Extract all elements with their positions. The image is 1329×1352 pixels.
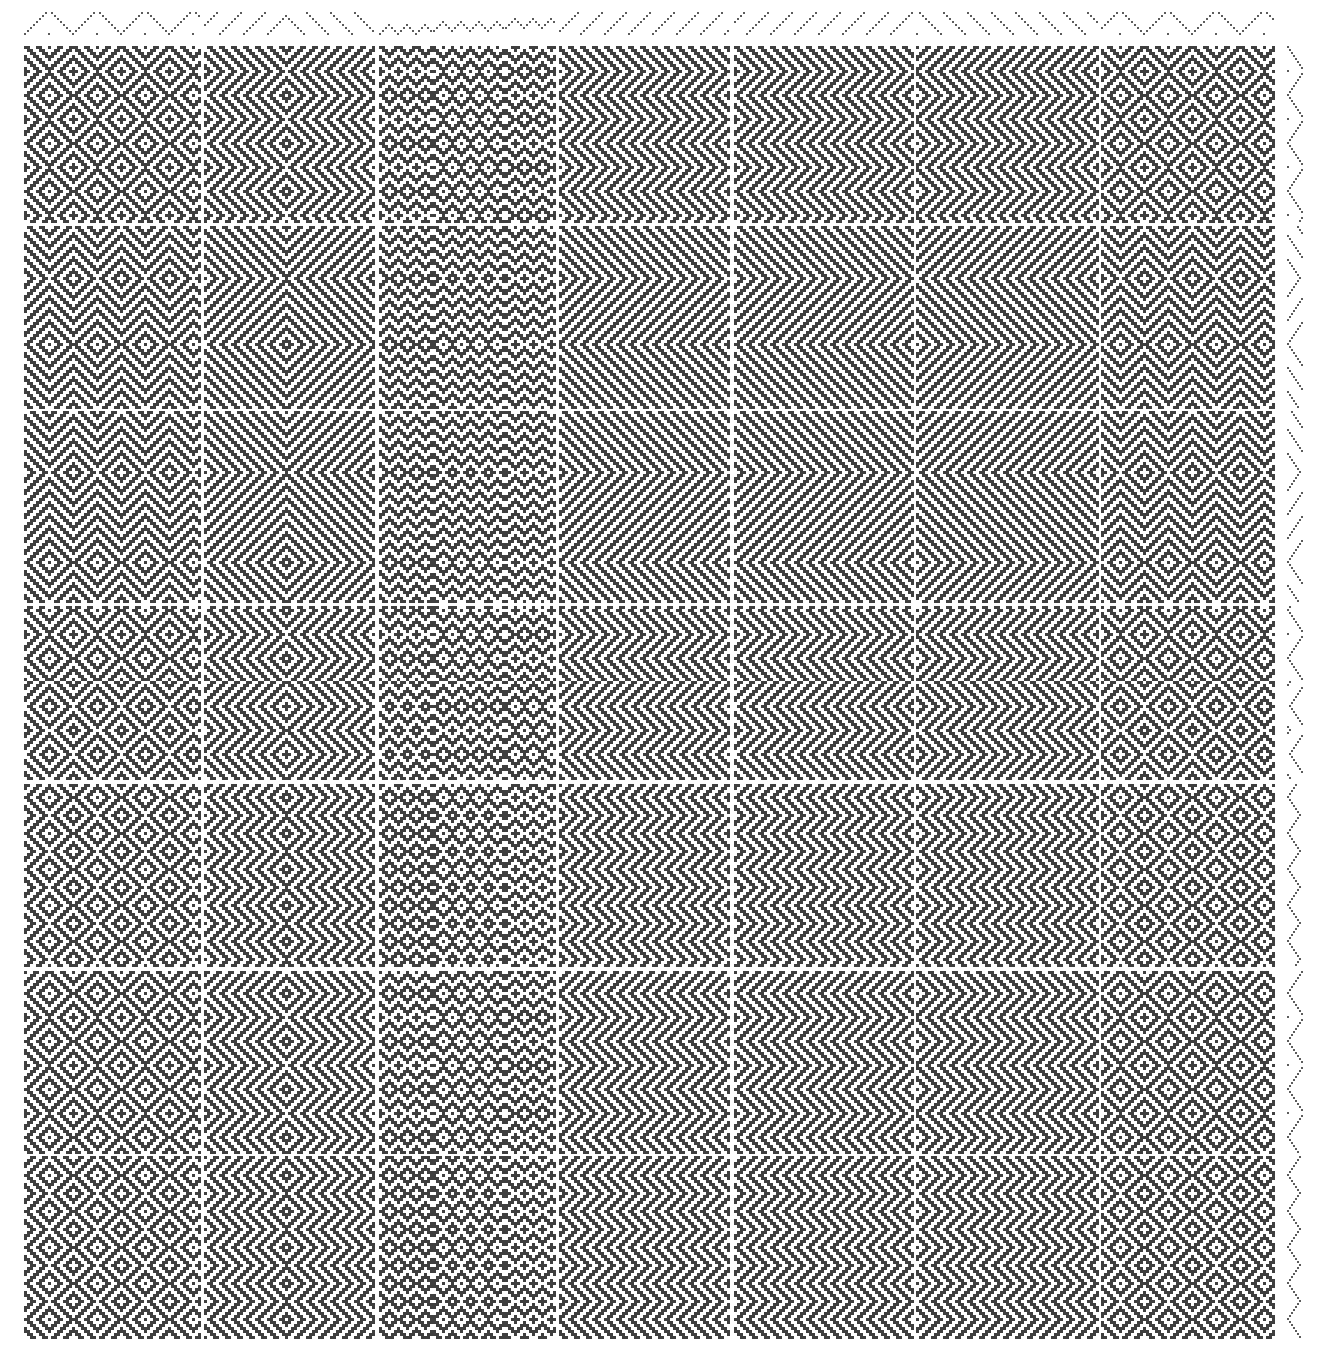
weaving-drawdown [0,0,1329,1352]
